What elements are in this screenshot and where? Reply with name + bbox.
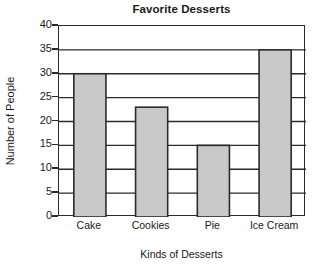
bar-chart: Favorite Desserts Number of People 05101… bbox=[0, 0, 318, 270]
y-axis-tick-label: 10 bbox=[8, 162, 52, 173]
y-axis-tick-label: 30 bbox=[8, 67, 52, 78]
y-axis-tick-label: 15 bbox=[8, 138, 52, 149]
bar bbox=[259, 50, 291, 217]
x-axis-tick-label: Cookies bbox=[132, 219, 170, 232]
x-axis-tick-label: Pie bbox=[205, 219, 220, 232]
y-axis-tick-label: 20 bbox=[8, 115, 52, 126]
y-axis-tick-label: 40 bbox=[8, 19, 52, 30]
x-axis-tick-label: Cake bbox=[77, 219, 102, 232]
y-axis-tick-label: 25 bbox=[8, 91, 52, 102]
bar bbox=[197, 145, 229, 217]
bars-group bbox=[74, 50, 291, 217]
x-axis-label: Kinds of Desserts bbox=[58, 248, 305, 260]
x-axis-tick-labels: CakeCookiesPieIce Cream bbox=[58, 219, 305, 235]
y-axis-tick-label: 5 bbox=[8, 186, 52, 197]
bar bbox=[136, 107, 168, 217]
bar bbox=[74, 74, 106, 217]
x-axis-tick-label: Ice Cream bbox=[250, 219, 298, 232]
plot-graphics bbox=[59, 26, 306, 217]
chart-title: Favorite Desserts bbox=[58, 3, 305, 16]
y-axis-tick-label: 0 bbox=[8, 210, 52, 221]
plot-area bbox=[58, 25, 305, 216]
y-axis-tick-label: 35 bbox=[8, 43, 52, 54]
y-axis-tick-labels: 0510152025303540 bbox=[6, 0, 52, 270]
